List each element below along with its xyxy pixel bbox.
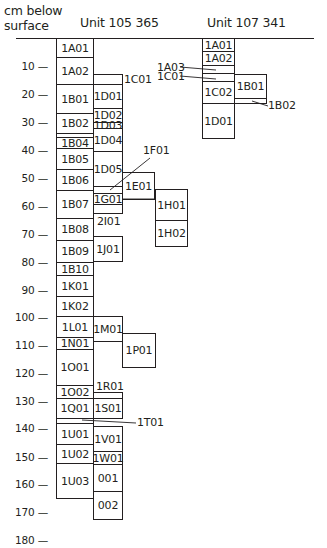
- unit-b-title: Unit 107 341: [207, 15, 286, 30]
- layer-box-1q01: 1Q01: [56, 398, 94, 419]
- layer-box-1k02: 1K02: [56, 296, 94, 317]
- layer-box-1d01: 1D01: [93, 84, 123, 109]
- axis-title-line2: surface: [4, 18, 49, 33]
- layer-box-1b02: 1B02: [56, 113, 94, 134]
- layer-box-1v01: 1V01: [93, 426, 123, 452]
- depth-tick: 30 —: [0, 116, 48, 128]
- layer-label-1f01: 1F01: [143, 145, 170, 157]
- layer-label-1t01: 1T01: [137, 417, 164, 429]
- layer-box-1c02: 1C02: [202, 81, 235, 104]
- layer-box-1j01: 1J01: [93, 236, 123, 262]
- layer-box-1a01: 1A01: [56, 38, 94, 58]
- layer-box-1w01: 1W01: [93, 451, 123, 465]
- axis-title-line1: cm below: [4, 3, 62, 18]
- depth-tick: 20 —: [0, 88, 48, 100]
- layer-box-1b08: 1B08: [56, 218, 94, 241]
- layer-box-2i01box: [93, 204, 123, 214]
- depth-tick: 150 —: [0, 451, 48, 463]
- depth-tick: 160 —: [0, 478, 48, 490]
- depth-tick: 180 —: [0, 534, 48, 546]
- depth-tick: 80 —: [0, 256, 48, 268]
- layer-box-1b10: 1B10: [56, 262, 94, 276]
- layer-box-1b09: 1B09: [56, 240, 94, 263]
- layer-box-1h01: 1H01: [155, 189, 188, 221]
- layer-box-1b06: 1B06: [56, 169, 94, 191]
- layer-box-1a02: 1A02: [56, 57, 94, 85]
- depth-tick: 140 —: [0, 422, 48, 434]
- depth-tick: 40 —: [0, 144, 48, 156]
- layer-box-1k01: 1K01: [56, 275, 94, 297]
- layer-label-1c01: 1C01: [157, 71, 185, 83]
- layer-box-1b01: 1B01: [234, 74, 267, 99]
- layer-box-1l01: 1L01: [56, 316, 94, 338]
- layer-label-1c01: 1C01: [124, 74, 152, 86]
- depth-tick: 10 —: [0, 60, 48, 72]
- layer-box-1o01: 1O01: [56, 349, 94, 386]
- depth-tick: 120 —: [0, 367, 48, 379]
- layer-box-1b02: [234, 98, 267, 104]
- layer-box-1p01: 1P01: [122, 333, 156, 368]
- layer-label-1r01: 1R01: [96, 381, 124, 393]
- depth-tick: 70 —: [0, 228, 48, 240]
- layer-box-1u02: 1U02: [56, 444, 94, 464]
- layer-box-1e01: 1E01: [122, 172, 155, 200]
- depth-tick: 90 —: [0, 284, 48, 296]
- depth-tick: 50 —: [0, 172, 48, 184]
- layer-box-1b07: 1B07: [56, 190, 94, 219]
- layer-box-001: 001: [93, 464, 123, 492]
- layer-label-2i01: 2I01: [97, 216, 120, 228]
- layer-box-1d04: 1D04: [93, 128, 123, 152]
- depth-tick: 100 —: [0, 311, 48, 323]
- unit-a-title: Unit 105 365: [80, 15, 159, 30]
- layer-box-1a02: 1A02: [202, 51, 235, 66]
- stratigraphy-diagram: cm below surface Unit 105 365 Unit 107 3…: [0, 0, 327, 548]
- layer-box-1u03: 1U03: [56, 463, 94, 499]
- layer-box-1d05: 1D05: [93, 151, 123, 187]
- depth-tick: 170 —: [0, 506, 48, 518]
- depth-tick: 130 —: [0, 395, 48, 407]
- layer-box-1o02: 1O02: [56, 385, 94, 399]
- layer-box-002: 002: [93, 491, 123, 520]
- layer-box-1b01: 1B01: [56, 84, 94, 114]
- layer-box-1u01: 1U01: [56, 423, 94, 445]
- layer-box-1b05: 1B05: [56, 148, 94, 170]
- layer-box-1d01: 1D01: [202, 103, 235, 139]
- depth-tick: 110 —: [0, 339, 48, 351]
- depth-tick: 60 —: [0, 200, 48, 212]
- layer-box-1m01: 1M01: [93, 316, 123, 342]
- layer-label-1b02: 1B02: [268, 100, 296, 112]
- layer-box-1a01: 1A01: [202, 38, 235, 52]
- layer-box-1s01: 1S01: [93, 398, 123, 419]
- layer-box-1h02: 1H02: [155, 220, 188, 247]
